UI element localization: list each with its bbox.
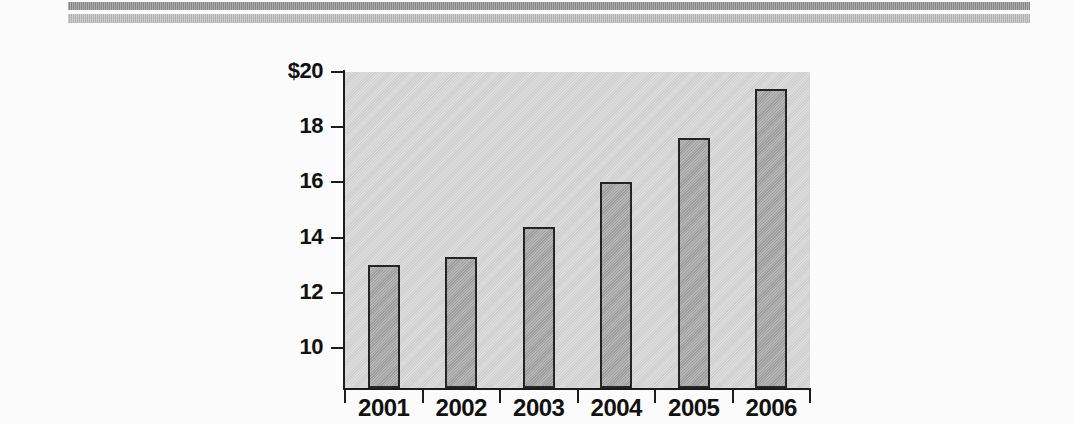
- x-axis-tick-label: 2001: [345, 395, 423, 421]
- y-axis-labels: $201816141210: [263, 0, 323, 424]
- y-axis-tick-label: 18: [263, 115, 323, 137]
- plot-area: [345, 72, 810, 388]
- y-axis-tick-label: 10: [263, 336, 323, 358]
- y-axis-line: [343, 70, 345, 390]
- y-axis-tick: [331, 292, 344, 294]
- y-axis-tick: [331, 347, 344, 349]
- bar: [368, 265, 400, 388]
- x-axis-tick-label: 2005: [655, 395, 733, 421]
- bar-chart: $201816141210 200120022003200420052006: [0, 0, 1074, 424]
- y-axis-tick-label: $20: [263, 60, 323, 82]
- y-axis-tick: [331, 237, 344, 239]
- y-axis-tick: [331, 126, 344, 128]
- y-axis-tick: [331, 71, 344, 73]
- bar: [600, 182, 632, 388]
- bar: [523, 227, 555, 388]
- y-axis-tick: [331, 181, 344, 183]
- x-axis-tick-label: 2004: [577, 395, 655, 421]
- y-axis-tick-label: 16: [263, 170, 323, 192]
- bar: [755, 89, 787, 388]
- y-axis-tick-label: 12: [263, 281, 323, 303]
- bar: [678, 138, 710, 388]
- bar: [445, 257, 477, 388]
- y-axis-tick-label: 14: [263, 226, 323, 248]
- x-axis-tick-label: 2002: [422, 395, 500, 421]
- x-axis-tick-label: 2006: [732, 395, 810, 421]
- x-axis-tick-label: 2003: [500, 395, 578, 421]
